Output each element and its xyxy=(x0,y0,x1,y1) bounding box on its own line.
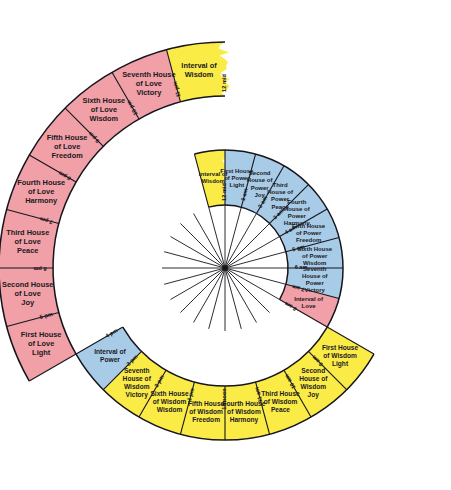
segment-label-line: Joy xyxy=(21,298,35,307)
segment-label-line: of Love xyxy=(136,79,162,88)
segment-label-group: SeventhHouse ofWisdomVictory xyxy=(123,367,152,399)
segment-label-line: House of xyxy=(123,375,152,382)
segment-label-line: House of xyxy=(247,177,274,183)
segment-label-line: Sixth House xyxy=(150,390,188,397)
segment-label-line: Third House xyxy=(261,390,300,397)
segment-label-line: Sixth House xyxy=(82,96,125,105)
segment-label-line: Third xyxy=(273,182,288,188)
segment-label-line: Harmony xyxy=(230,416,259,424)
segment-label-line: Wisdom xyxy=(185,70,214,79)
segment-label-line: of Wisdom xyxy=(323,352,357,359)
time-label: 12 mid xyxy=(221,183,227,201)
segment-label-line: House of xyxy=(302,273,329,279)
segment-label-line: of Love xyxy=(15,237,41,246)
segment-label-line: Light xyxy=(332,360,349,368)
segment-label-group: Fifth Houseof WisdomFreedom xyxy=(188,400,225,423)
segment-label-line: Second xyxy=(249,170,271,176)
segment-label-line: Wisdom xyxy=(157,406,183,413)
wheel-svg: Interval ofWisdomFirst Houseof PowerLigh… xyxy=(0,0,451,490)
time-label: 6 am xyxy=(295,264,308,270)
segment-label-line: Interval of xyxy=(94,348,126,355)
segment-label-line: of Wisdom xyxy=(153,398,187,405)
segment-label-line: House of xyxy=(284,206,311,212)
segment-label-line: of Love xyxy=(15,289,41,298)
segment-label-line: Light xyxy=(229,182,244,188)
segment-label-line: Peace xyxy=(271,406,290,413)
segment-label-line: Victory xyxy=(136,88,162,97)
segment-label-line: Fourth xyxy=(287,199,306,205)
segment-label-line: Wisdom xyxy=(90,114,119,123)
segment-label-line: of Wisdom xyxy=(264,398,298,405)
segment-label-line: Freedom xyxy=(192,416,220,423)
segment-label-line: Freedom xyxy=(52,151,84,160)
segment-label-line: Love xyxy=(302,303,317,309)
segment-label-line: Wisdom xyxy=(300,383,326,390)
segment-label-line: of Love xyxy=(28,187,54,196)
segment-label-line: Power xyxy=(100,356,120,363)
time-label: 6 pm xyxy=(33,266,46,272)
segment-label-line: House of xyxy=(267,189,294,195)
hub-center-dot xyxy=(222,265,227,270)
segment-label-line: Victory xyxy=(126,391,149,399)
segment-label-line: Power xyxy=(306,280,325,286)
segment-label-line: of Wisdom xyxy=(227,408,261,415)
segment-label-line: Seventh House xyxy=(122,70,175,79)
segment-label-line: Interval of xyxy=(294,296,324,302)
segment-label-group: Fifth Houseof PowerFreedom xyxy=(292,223,326,243)
segment-label-line: Joy xyxy=(308,391,320,399)
segment-label-line: Light xyxy=(32,348,51,357)
segment-label-line: Power xyxy=(288,213,307,219)
segment-label-line: Peace xyxy=(17,246,38,255)
segment-label-line: Wisdom xyxy=(124,383,150,390)
segment-label-line: Second House xyxy=(2,280,53,289)
segment-label-line: Fifth House xyxy=(47,133,88,142)
segment-label-line: of Power xyxy=(296,230,322,236)
time-label: 12 noon xyxy=(221,388,227,410)
segment-label-line: Fifth House xyxy=(188,400,225,407)
segment-label-group: Interval ofWisdom xyxy=(181,61,217,79)
segment-label-line: Second xyxy=(301,367,325,374)
segment-label-line: of Love xyxy=(54,142,80,151)
segment-label-line: House of xyxy=(299,375,328,382)
segment-label-line: Fifth House xyxy=(292,223,326,229)
segment-label-line: Harmony xyxy=(25,196,58,205)
segment-label-line: of Power xyxy=(302,253,328,259)
segment-label-line: Victory xyxy=(305,287,326,293)
segment-label-line: First House xyxy=(322,344,359,351)
segment-label-line: Freedom xyxy=(296,237,321,243)
segment-label-line: Third House xyxy=(6,228,49,237)
segment-label-line: First House xyxy=(21,330,62,339)
spiral-wheel-diagram: Interval ofWisdomFirst Houseof PowerLigh… xyxy=(0,0,451,490)
segment-label-line: of Wisdom xyxy=(189,408,223,415)
segment-label-line: Fourth House xyxy=(17,178,65,187)
segment-label-line: Seventh xyxy=(124,367,150,374)
segment-label-line: of Love xyxy=(91,105,117,114)
segment-label-line: of Love xyxy=(28,339,54,348)
time-label: 12 mid xyxy=(221,74,227,92)
segment-label-line: Interval of xyxy=(181,61,217,70)
